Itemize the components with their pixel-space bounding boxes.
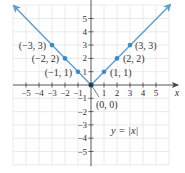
x-tick-label: 5 [154,88,159,98]
point-label-origin: (0, 0) [96,99,118,111]
point-label: (3, 3) [135,40,157,52]
point-label: (−2, 2) [32,53,59,65]
x-tick-label: −3 [47,88,57,98]
point-3-3 [128,43,133,48]
origin-leader-line [92,86,99,97]
equation-label: y = |x| [110,125,138,136]
point-label: (−1, 1) [45,67,72,79]
x-tick-label: 2 [115,88,120,98]
y-tick-label: 1 [83,67,88,77]
point-1-1 [102,69,107,74]
x-tick-labels: −5 −4 −3 −2 −1 1 2 3 4 5 [21,88,159,98]
point-neg2-2 [63,56,68,61]
x-tick-label: 4 [141,88,146,98]
point-label: (2, 2) [123,53,145,65]
point-label: (−3, 3) [19,40,46,52]
x-axis-label: x [174,87,180,98]
x-tick-label: −4 [34,88,44,98]
axes [13,0,178,166]
y-tick-label: −1 [77,93,87,103]
x-tick-label: −5 [21,88,31,98]
x-tick-label: −2 [60,88,70,98]
y-tick-label: 4 [83,27,88,37]
y-tick-label: −4 [77,133,87,143]
y-tick-label: −3 [77,120,87,130]
point-neg3-3 [50,43,55,48]
x-tick-label: 1 [102,88,107,98]
y-tick-label: 3 [83,40,88,50]
y-tick-label: 5 [83,14,88,24]
point-origin [89,83,94,88]
y-tick-label: −2 [77,107,87,117]
x-tick-label: 3 [128,88,133,98]
y-tick-label: 2 [83,53,88,63]
equation-text: y = |x| [110,125,138,136]
y-tick-label: −5 [77,147,87,157]
point-neg1-1 [76,69,81,74]
point-label: (1, 1) [110,67,132,79]
absolute-value-graph: −5 −4 −3 −2 −1 1 2 3 4 5 x 5 4 3 2 1 −1 … [0,0,185,173]
point-2-2 [115,56,120,61]
